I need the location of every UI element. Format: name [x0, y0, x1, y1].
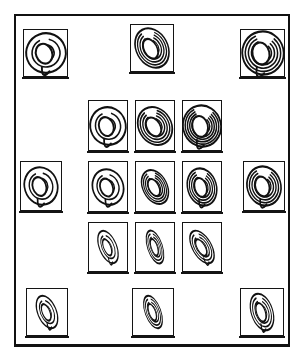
galaxy-panel-inner-r1-c3[interactable] [182, 100, 222, 151]
galaxy-panel-outer-top-center[interactable] [130, 24, 174, 72]
galaxy-panel-inner-r3-c1[interactable] [88, 222, 128, 272]
spiral-galaxy-icon [235, 285, 290, 340]
spiral-galaxy-icon [129, 161, 181, 213]
galaxy-panel-inner-r2-c2[interactable] [135, 161, 175, 212]
spiral-galaxy-icon [14, 159, 69, 214]
spiral-galaxy-icon [176, 221, 228, 273]
spiral-galaxy-icon [130, 222, 179, 271]
spiral-galaxy-icon [17, 24, 74, 81]
figure-canvas [0, 0, 303, 364]
spiral-galaxy-icon [172, 96, 232, 156]
galaxy-panel-outer-middle-left[interactable] [20, 161, 62, 211]
galaxy-panel-inner-r3-c2[interactable] [135, 222, 175, 272]
galaxy-panel-inner-r2-c3[interactable] [182, 161, 222, 212]
spiral-galaxy-icon [122, 18, 182, 78]
spiral-galaxy-icon [128, 287, 177, 336]
galaxy-panel-inner-r1-c2[interactable] [135, 100, 175, 151]
spiral-galaxy-icon [82, 161, 134, 213]
galaxy-panel-outer-top-right[interactable] [240, 29, 285, 77]
galaxy-panel-inner-r2-c1[interactable] [88, 161, 128, 212]
galaxy-panel-outer-middle-right[interactable] [243, 161, 285, 211]
spiral-galaxy-icon [231, 22, 293, 84]
spiral-galaxy-icon [83, 222, 132, 271]
galaxy-panel-inner-r1-c1[interactable] [88, 100, 128, 151]
galaxy-panel-outer-bottom-left[interactable] [26, 288, 68, 336]
galaxy-panel-inner-r3-c3[interactable] [182, 222, 222, 272]
spiral-galaxy-icon [235, 157, 292, 214]
spiral-galaxy-icon [175, 159, 230, 214]
galaxy-panel-outer-bottom-center[interactable] [132, 288, 174, 336]
galaxy-panel-outer-top-left[interactable] [23, 29, 68, 77]
spiral-galaxy-icon [22, 287, 71, 336]
galaxy-panel-outer-bottom-right[interactable] [240, 288, 284, 336]
